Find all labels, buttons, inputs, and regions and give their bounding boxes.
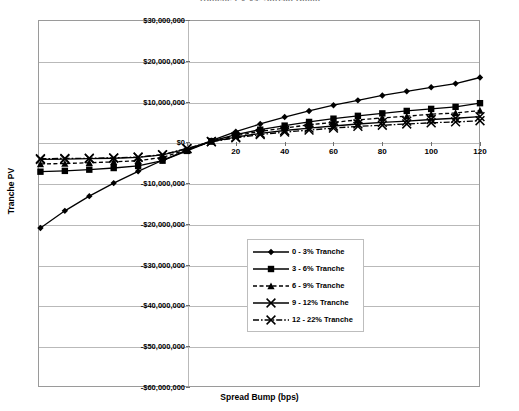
legend-key-diamond-icon — [251, 245, 291, 259]
y-tick-mark — [186, 183, 190, 184]
x-tick-mark — [480, 142, 481, 146]
legend-label: 3 - 6% Tranche — [292, 264, 345, 273]
y-tick-label: $0 — [177, 138, 185, 147]
x-tick-mark — [431, 142, 432, 146]
y-tick-label: $20,000,000 — [143, 56, 185, 65]
chart-container: Tranche PV vs. Spread Bump $30,000,000$2… — [0, 0, 519, 411]
x-tick-label: 40 — [280, 147, 289, 156]
x-tick-label: 100 — [424, 147, 437, 156]
x-tick-label: 60 — [329, 147, 338, 156]
y-tick-mark — [186, 387, 190, 388]
y-axis-ticks: $30,000,000$20,000,000$10,000,000$0-$10,… — [0, 0, 185, 411]
legend-key-square-icon — [251, 262, 291, 276]
x-tick-label: 0 — [185, 147, 189, 156]
chart-legend: 0 - 3% Tranche3 - 6% Tranche6 - 9% Tranc… — [247, 239, 364, 332]
y-tick-label: -$60,000,000 — [141, 383, 185, 392]
x-tick-mark — [382, 142, 383, 146]
legend-label: 12 - 22% Tranche — [292, 315, 353, 324]
legend-key-x-icon — [251, 296, 291, 310]
y-tick-mark — [186, 20, 190, 21]
y-tick-label: -$10,000,000 — [141, 179, 185, 188]
x-axis-title: Spread Bump (bps) — [0, 392, 519, 402]
y-tick-mark — [186, 265, 190, 266]
y-tick-mark — [186, 305, 190, 306]
legend-key-triangle-icon — [251, 279, 291, 293]
y-axis-title: Tranche PV — [6, 156, 16, 226]
y-tick-label: -$20,000,000 — [141, 219, 185, 228]
x-tick-mark — [285, 142, 286, 146]
legend-key-x-icon — [251, 313, 291, 327]
y-tick-label: -$40,000,000 — [141, 301, 185, 310]
legend-label: 6 - 9% Tranche — [292, 281, 345, 290]
y-tick-mark — [186, 346, 190, 347]
x-tick-mark — [236, 142, 237, 146]
y-tick-mark — [186, 224, 190, 225]
y-tick-label: -$50,000,000 — [141, 342, 185, 351]
legend-item[interactable]: 12 - 22% Tranche — [251, 311, 359, 328]
legend-label: 9 - 12% Tranche — [292, 298, 349, 307]
x-tick-label: 120 — [473, 147, 486, 156]
x-tick-label: 80 — [378, 147, 387, 156]
legend-item[interactable]: 3 - 6% Tranche — [251, 260, 359, 277]
y-tick-mark — [186, 61, 190, 62]
legend-item[interactable]: 6 - 9% Tranche — [251, 277, 359, 294]
y-tick-label: -$30,000,000 — [141, 260, 185, 269]
legend-item[interactable]: 0 - 3% Tranche — [251, 243, 359, 260]
y-tick-mark — [186, 102, 190, 103]
legend-item[interactable]: 9 - 12% Tranche — [251, 294, 359, 311]
x-tick-label: 20 — [231, 147, 240, 156]
x-tick-mark — [187, 142, 188, 146]
y-tick-label: $10,000,000 — [143, 97, 185, 106]
legend-label: 0 - 3% Tranche — [292, 247, 345, 256]
y-tick-label: $30,000,000 — [143, 16, 185, 25]
x-tick-mark — [333, 142, 334, 146]
